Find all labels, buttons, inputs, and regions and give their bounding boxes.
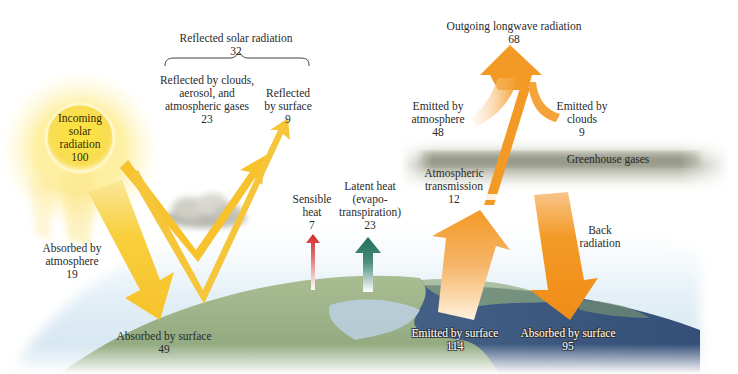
label-line: Reflected by clouds, [160, 74, 254, 87]
label-line: radiation [58, 138, 102, 151]
label-line: Back [580, 224, 621, 237]
label-line: atmospheric gases [160, 100, 254, 113]
label-line: solar [58, 125, 102, 138]
label-line: Latent heat [339, 180, 401, 193]
absorbed-atmosphere-label: Absorbed by atmosphere 19 [42, 242, 101, 281]
label-line: by surface [264, 100, 312, 113]
ground-fade [0, 344, 738, 374]
label-line: Reflected solar radiation [179, 32, 292, 45]
emitted-atmosphere-label: Emitted by atmosphere 48 [411, 100, 464, 139]
emitted-clouds-label: Emitted by clouds 9 [557, 100, 608, 139]
label-line: Emitted by [411, 100, 464, 113]
label-line: Incoming [58, 112, 102, 125]
label-line: atmosphere [411, 113, 464, 126]
emitted-clouds-value: 9 [557, 126, 608, 139]
incoming-solar-label: Incoming solar radiation 100 [58, 112, 102, 164]
atmos-transmission-value: 12 [424, 193, 483, 206]
label-line: atmosphere [42, 255, 101, 268]
reflected-total-value: 32 [179, 45, 292, 58]
absorbed-surface-solar-label: Absorbed by surface 49 [116, 330, 211, 356]
energy-budget-diagram: Incoming solar radiation 100 Reflected s… [0, 0, 738, 374]
emitted-clouds-arrow [528, 82, 560, 122]
reflected-clouds-label: Reflected by clouds, aerosol, and atmosp… [160, 74, 254, 126]
sun-ray [60, 170, 95, 245]
absorbed-surface-solar-value: 49 [116, 343, 211, 356]
outgoing-longwave-value: 68 [447, 33, 582, 46]
atmos-transmission-label: Atmospheric transmission 12 [424, 167, 483, 206]
label-line: aerosol, and [160, 87, 254, 100]
label-line: Sensible [293, 193, 332, 206]
label-line: radiation [580, 237, 621, 250]
label-line: Absorbed by surface [520, 327, 615, 340]
label-line: Outgoing longwave radiation [447, 20, 582, 33]
label-line: Absorbed by surface [116, 330, 211, 343]
label-line: Emitted by surface [412, 327, 499, 340]
back-radiation-label: Back radiation [580, 224, 621, 250]
sensible-heat-label: Sensible heat 7 [293, 193, 332, 232]
label-line: clouds [557, 113, 608, 126]
reflected-surface-label: Reflected by surface 9 [264, 87, 312, 126]
incoming-solar-value: 100 [58, 151, 102, 164]
label-line: heat [293, 206, 332, 219]
greenhouse-gases-label: Greenhouse gases [567, 153, 650, 166]
emitted-surface-value: 114 [412, 340, 499, 353]
label-line: Greenhouse gases [567, 153, 650, 166]
sun-ray [30, 175, 55, 240]
emitted-surface-label: Emitted by surface 114 [412, 327, 499, 353]
absorbed-atmosphere-value: 19 [42, 268, 101, 281]
label-line: Reflected [264, 87, 312, 100]
reflected-clouds-value: 23 [160, 113, 254, 126]
reflected-total-label: Reflected solar radiation 32 [179, 32, 292, 58]
reflected-surface-value: 9 [264, 113, 312, 126]
outgoing-longwave-label: Outgoing longwave radiation 68 [447, 20, 582, 46]
label-line: transmission [424, 180, 483, 193]
latent-heat-value: 23 [339, 219, 401, 232]
latent-heat-label: Latent heat (evapo- transpiration) 23 [339, 180, 401, 232]
label-line: (evapo- [339, 193, 401, 206]
emitted-atmosphere-value: 48 [411, 126, 464, 139]
label-line: Emitted by [557, 100, 608, 113]
sensible-heat-value: 7 [293, 219, 332, 232]
label-line: transpiration) [339, 206, 401, 219]
absorbed-surface-back-value: 95 [520, 340, 615, 353]
label-line: Atmospheric [424, 167, 483, 180]
label-line: Absorbed by [42, 242, 101, 255]
absorbed-surface-back-label: Absorbed by surface 95 [520, 327, 615, 353]
